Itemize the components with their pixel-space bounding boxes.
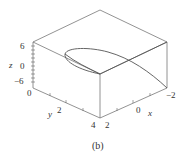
z-tick-label: −6	[14, 76, 24, 86]
z-tick-label: 6	[20, 41, 25, 51]
3d-plot-figure: 6 0 −6 z 0 2 4 y 2 0 −2 x (b)	[0, 0, 191, 161]
y-tick-label: 2	[57, 105, 62, 115]
z-tick-label: 0	[20, 61, 25, 71]
figure-caption: (b)	[92, 140, 104, 152]
y-tick-label: 0	[27, 88, 32, 98]
x-axis-label: x	[147, 108, 152, 118]
y-axis-label: y	[47, 109, 52, 119]
plot-box	[33, 10, 167, 118]
y-tick-label: 4	[91, 120, 96, 130]
x-tick-label: 2	[105, 120, 110, 130]
plot-canvas: 6 0 −6 z 0 2 4 y 2 0 −2 x (b)	[0, 0, 191, 161]
x-tick-label: 0	[136, 105, 141, 115]
x-tick-label: −2	[166, 90, 176, 100]
z-axis-label: z	[8, 60, 13, 70]
